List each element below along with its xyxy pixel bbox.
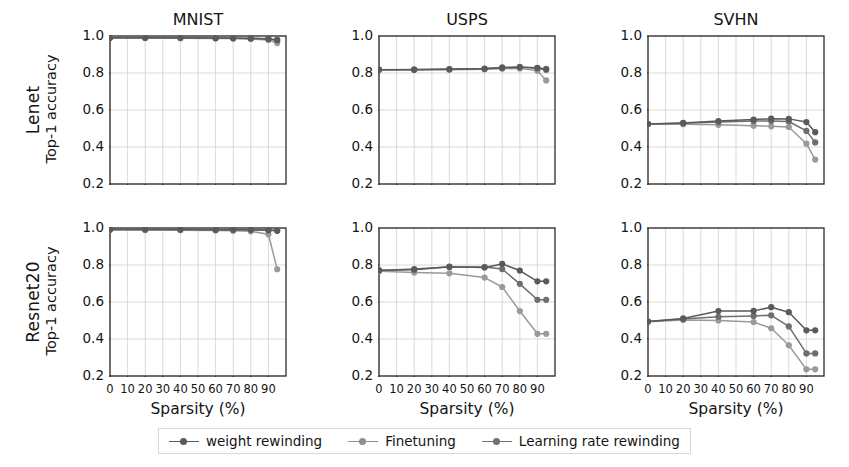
series-marker-finetuning [803, 366, 809, 372]
legend-dot [493, 438, 500, 445]
series-marker-finetuning [517, 308, 523, 314]
series-marker-learning-rate-rewinding [534, 297, 540, 303]
series-marker-weight-rewinding [812, 129, 818, 135]
series-marker-weight-rewinding [230, 35, 236, 41]
series-marker-weight-rewinding [768, 304, 774, 310]
series-marker-weight-rewinding [680, 120, 686, 126]
series-marker-weight-rewinding [411, 267, 417, 273]
series-marker-finetuning [768, 325, 774, 331]
legend-label: Learning rate rewinding [519, 433, 680, 449]
y-tick-label: 0.8 [337, 64, 373, 80]
legend-item-learning-rate-rewinding: Learning rate rewinding [482, 433, 680, 449]
grid-lines [648, 228, 824, 376]
series-marker-weight-rewinding [812, 327, 818, 333]
series-marker-weight-rewinding [411, 67, 417, 73]
series-marker-weight-rewinding [213, 35, 219, 41]
y-tick-label: 0.4 [68, 138, 104, 154]
series-marker-weight-rewinding [142, 35, 148, 41]
series-marker-finetuning [751, 319, 757, 325]
series-marker-weight-rewinding [751, 308, 757, 314]
series-marker-learning-rate-rewinding [812, 139, 818, 145]
y-axis-label: Top-1 accuracy [43, 241, 59, 361]
x-axis-label: Sparsity (%) [110, 400, 286, 418]
series-marker-weight-rewinding [786, 116, 792, 122]
series-marker-learning-rate-rewinding [812, 350, 818, 356]
series-marker-weight-rewinding [517, 64, 523, 70]
plot-axes-resnet20-svhn [647, 227, 825, 377]
grid-lines [110, 36, 286, 184]
series-marker-weight-rewinding [534, 278, 540, 284]
y-tick-label: 0.6 [68, 101, 104, 117]
series-marker-weight-rewinding [751, 117, 757, 123]
series-marker-finetuning [543, 331, 549, 337]
series-marker-weight-rewinding [803, 119, 809, 125]
series-marker-weight-rewinding [534, 65, 540, 71]
series-marker-finetuning [786, 124, 792, 130]
series-marker-finetuning [446, 270, 452, 276]
series-marker-weight-rewinding [265, 36, 271, 42]
series-marker-learning-rate-rewinding [715, 314, 721, 320]
y-tick-label: 0.4 [337, 138, 373, 154]
series-marker-weight-rewinding [482, 66, 488, 72]
y-tick-label: 0.6 [606, 101, 642, 117]
y-tick-label: 1.0 [337, 219, 373, 235]
series-marker-weight-rewinding [248, 227, 254, 233]
y-tick-label: 0.2 [68, 175, 104, 191]
series-marker-weight-rewinding [786, 309, 792, 315]
series-marker-weight-rewinding [274, 37, 280, 43]
plot-inner [647, 36, 824, 185]
series-marker-weight-rewinding [482, 264, 488, 270]
y-tick-label: 0.8 [606, 64, 642, 80]
x-tick-label: 90 [523, 382, 551, 396]
grid-lines [648, 36, 824, 184]
y-tick-label: 0.4 [68, 330, 104, 346]
y-tick-label: 0.2 [337, 175, 373, 191]
grid-lines [110, 228, 286, 376]
y-tick-label: 0.2 [68, 367, 104, 383]
series-marker-finetuning [499, 284, 505, 290]
y-tick-label: 0.2 [606, 367, 642, 383]
legend-marker-icon [482, 435, 512, 447]
legend-marker-icon [169, 435, 199, 447]
series-marker-weight-rewinding [543, 67, 549, 73]
series-marker-finetuning [803, 141, 809, 147]
legend: weight rewindingFinetuningLearning rate … [158, 428, 691, 454]
series-marker-weight-rewinding [715, 308, 721, 314]
x-tick-label: 90 [792, 382, 820, 396]
y-tick-label: 0.6 [68, 293, 104, 309]
y-tick-label: 0.6 [606, 293, 642, 309]
series-marker-weight-rewinding [446, 66, 452, 72]
legend-marker-icon [348, 435, 378, 447]
legend-item-weight-rewinding: weight rewinding [169, 433, 322, 449]
series-marker-finetuning [812, 156, 818, 162]
series-marker-learning-rate-rewinding [543, 297, 549, 303]
y-tick-label: 1.0 [68, 27, 104, 43]
y-tick-label: 0.2 [606, 175, 642, 191]
series-line-finetuning [379, 271, 546, 334]
series-marker-weight-rewinding [109, 35, 113, 41]
plot-inner [109, 35, 286, 185]
legend-dot [359, 438, 366, 445]
plot-inner [109, 227, 286, 377]
series-marker-weight-rewinding [647, 121, 651, 127]
row-label-lenet: Lenet [23, 65, 43, 155]
series-marker-learning-rate-rewinding [786, 323, 792, 329]
series-marker-weight-rewinding [274, 228, 280, 234]
series-marker-learning-rate-rewinding [803, 350, 809, 356]
series-marker-finetuning [482, 274, 488, 280]
legend-dot [180, 438, 187, 445]
series-marker-finetuning [543, 77, 549, 83]
panel-title-usps: USPS [379, 10, 555, 29]
series-marker-learning-rate-rewinding [803, 128, 809, 134]
y-tick-label: 0.8 [68, 64, 104, 80]
grid-lines [379, 36, 555, 184]
legend-item-finetuning: Finetuning [348, 433, 456, 449]
y-tick-label: 1.0 [337, 27, 373, 43]
series-marker-weight-rewinding [517, 267, 523, 273]
plot-inner [378, 36, 555, 185]
plot-axes-resnet20-mnist [109, 227, 287, 377]
panel-title-svhn: SVHN [648, 10, 824, 29]
series-marker-learning-rate-rewinding [768, 312, 774, 318]
y-tick-label: 0.4 [606, 330, 642, 346]
y-tick-label: 0.8 [337, 256, 373, 272]
